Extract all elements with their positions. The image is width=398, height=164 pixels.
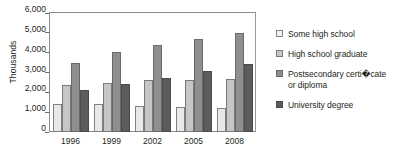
bar — [185, 80, 194, 132]
bar-group — [50, 13, 91, 132]
legend-item[interactable]: Some high school — [276, 29, 398, 40]
legend-item[interactable]: High school graduate — [276, 49, 398, 60]
bar-group — [173, 13, 214, 132]
bar-group — [214, 13, 255, 132]
legend-swatch-icon — [276, 70, 283, 77]
bar — [62, 85, 71, 132]
x-axis-tick-label: 1999 — [90, 136, 134, 146]
bar — [112, 52, 121, 132]
legend-label-part: Postsecondary certi — [288, 69, 362, 79]
y-axis-tick-label: 4,000 — [14, 44, 46, 53]
y-axis-tick-labels: 6,0005,0004,0003,0002,0001,0000 — [14, 8, 46, 132]
y-axis-tick-label: 3,000 — [14, 64, 46, 73]
bar-groups — [50, 13, 255, 132]
bar — [217, 108, 226, 132]
bar — [53, 104, 62, 132]
x-axis-tick-label: 2002 — [131, 136, 175, 146]
bar — [144, 80, 153, 132]
x-axis-tick-label: 2005 — [172, 136, 216, 146]
legend-item-label: Some high school — [288, 29, 355, 40]
bar — [203, 71, 212, 132]
bar-group — [91, 13, 132, 132]
x-axis-tick-labels: 19961999200220052008 — [50, 136, 255, 150]
legend-label-part: cate — [370, 69, 386, 79]
legend-item-label: Postsecondary certi�cateor diploma — [288, 69, 386, 91]
legend-swatch-icon — [276, 101, 283, 108]
legend-item[interactable]: University degree — [276, 100, 398, 111]
bar — [153, 45, 162, 132]
bar — [80, 90, 89, 132]
legend-item-label: High school graduate — [288, 49, 367, 60]
legend-swatch-icon — [276, 30, 283, 37]
y-axis-tick-label: 1,000 — [14, 104, 46, 113]
y-axis-tick-label: 2,000 — [14, 84, 46, 93]
y-axis-tick-label: 0 — [14, 124, 46, 133]
bar — [176, 107, 185, 132]
x-axis-tick-label: 1996 — [49, 136, 93, 146]
bar — [194, 39, 203, 132]
chart-screenshot: Thousands 6,0005,0004,0003,0002,0001,000… — [0, 0, 398, 164]
bar-group — [132, 13, 173, 132]
chart-legend: Some high schoolHigh school graduatePost… — [276, 29, 398, 120]
bar — [71, 63, 80, 132]
y-axis-tick-label: 6,000 — [14, 5, 46, 14]
legend-item[interactable]: Postsecondary certi�cateor diploma — [276, 69, 398, 91]
bar — [244, 64, 253, 132]
x-axis-tick-label: 2008 — [213, 136, 257, 146]
bar — [94, 104, 103, 132]
legend-swatch-icon — [276, 50, 283, 57]
bar — [235, 33, 244, 132]
bar — [162, 78, 171, 132]
bar — [226, 79, 235, 132]
y-axis-tick-label: 5,000 — [14, 25, 46, 34]
legend-item-label: University degree — [288, 100, 353, 111]
bar — [103, 83, 112, 132]
bar — [121, 84, 130, 132]
bar — [135, 106, 144, 132]
legend-label-line2: or diploma — [288, 80, 327, 90]
